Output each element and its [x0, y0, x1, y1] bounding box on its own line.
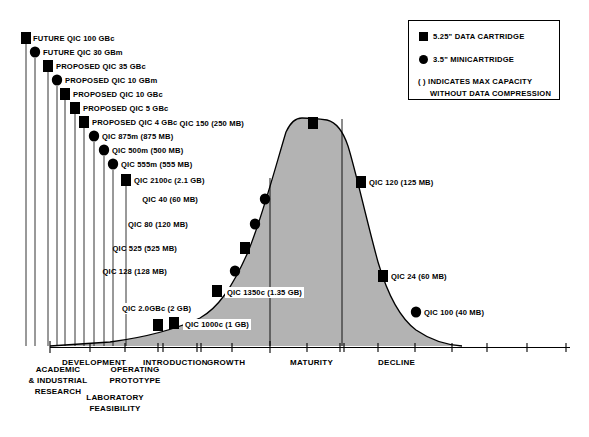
data-point-marker	[70, 102, 80, 114]
legend-label-minicartridge: 3.5" MINICARTRIDGE	[433, 55, 514, 65]
data-point-marker	[79, 116, 89, 128]
data-point-label: FUTURE QIC 100 GBc	[33, 34, 115, 43]
subphase-laboratory-line1: LABORATORY	[60, 392, 170, 403]
data-point-marker	[240, 242, 250, 254]
phase-label-growth: GROWTH	[207, 358, 245, 367]
data-point-label: FUTURE QIC 30 GBm	[43, 48, 123, 57]
data-point-label: QIC 1000c (1 GB)	[183, 319, 251, 330]
data-point-marker	[43, 60, 53, 72]
data-point-marker	[153, 319, 163, 331]
data-point-label: QIC 40 (60 MB)	[142, 195, 198, 204]
data-point-label: PROPOSED QIC 10 GBm	[65, 76, 157, 85]
legend-label-data-cartridge: 5.25" DATA CARTRIDGE	[433, 32, 524, 42]
legend-box: 5.25" DATA CARTRIDGE 3.5" MINICARTRIDGE …	[408, 20, 560, 100]
data-point-marker	[250, 218, 260, 229]
data-point-label: QIC 1350c (1.35 GB)	[225, 287, 304, 298]
data-point-label: QIC 128 (128 MB)	[103, 267, 167, 276]
chart-canvas: FUTURE QIC 100 GBcFUTURE QIC 30 GBmPROPO…	[0, 0, 589, 437]
subphase-prototype: OPERATING PROTOTYPE	[90, 364, 180, 386]
phase-label-maturity: MATURITY	[290, 358, 333, 367]
data-point-label: QIC 80 (120 MB)	[128, 220, 188, 229]
data-point-marker	[169, 317, 179, 329]
data-point-label: QIC 150 (250 MB)	[180, 119, 244, 128]
subphase-prototype-line1: OPERATING	[90, 364, 180, 375]
legend-circle-icon	[419, 55, 428, 64]
data-point-label: PROPOSED QIC 35 GBc	[56, 62, 146, 71]
legend-note-line2: WITHOUT DATA COMPRESSION	[430, 89, 551, 99]
data-point-marker	[108, 158, 118, 169]
data-point-marker	[89, 130, 99, 141]
subphase-laboratory: LABORATORY FEASIBILITY	[60, 392, 170, 414]
data-point-label: PROPOSED QIC 5 GBc	[83, 104, 168, 113]
data-point-marker	[308, 117, 318, 129]
data-point-marker	[212, 285, 222, 297]
data-point-marker	[60, 88, 70, 100]
data-point-label: QIC 120 (125 MB)	[369, 178, 433, 187]
legend-square-icon	[419, 32, 428, 41]
data-point-label: QIC 2.0GBc (2 GB)	[120, 303, 193, 314]
data-point-label: QIC 2100c (2.1 GB)	[134, 176, 205, 185]
data-point-marker	[121, 174, 131, 186]
data-point-marker	[356, 176, 366, 188]
subphase-prototype-line2: PROTOTYPE	[90, 375, 180, 386]
data-point-label: QIC 500m (500 MB)	[112, 146, 183, 155]
data-point-label: QIC 100 (40 MB)	[424, 308, 484, 317]
data-point-marker	[99, 144, 109, 155]
data-point-label: QIC 555m (555 MB)	[121, 160, 192, 169]
data-point-label: QIC 525 (525 MB)	[113, 244, 177, 253]
data-point-marker	[378, 270, 388, 282]
phase-label-decline: DECLINE	[378, 358, 415, 367]
subphase-laboratory-line2: FEASIBILITY	[60, 403, 170, 414]
data-point-marker	[260, 193, 270, 204]
data-point-label: QIC 24 (60 MB)	[391, 272, 447, 281]
data-point-marker	[52, 74, 62, 85]
data-point-label: PROPOSED QIC 4 GBc	[92, 118, 177, 127]
legend-note-line1: ( ) INDICATES MAX CAPACITY	[418, 77, 532, 87]
data-point-marker	[30, 46, 40, 57]
data-point-marker	[21, 32, 31, 44]
data-point-marker	[411, 306, 421, 317]
data-point-label: QIC 875m (875 MB)	[102, 132, 173, 141]
data-point-label: PROPOSED QIC 10 GBc	[73, 90, 163, 99]
data-point-marker	[230, 265, 240, 276]
